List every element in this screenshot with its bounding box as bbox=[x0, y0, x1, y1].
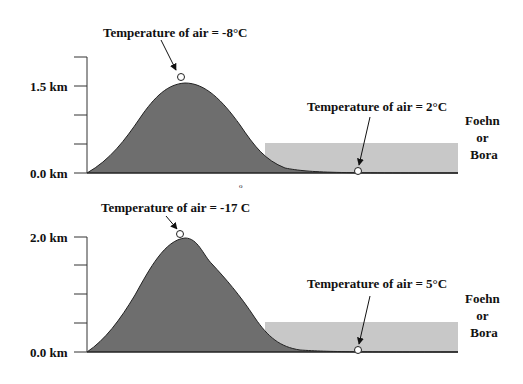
air-parcel-summit bbox=[178, 74, 185, 81]
panel-top: 1.5 km 0.0 km Temperature of air = -8°C … bbox=[30, 25, 503, 181]
axis-label-top: 1.5 km bbox=[30, 79, 68, 94]
summit-arrow bbox=[161, 40, 176, 70]
air-parcel-lee bbox=[355, 347, 362, 354]
axis-label-bottom: 0.0 km bbox=[30, 166, 68, 181]
air-parcel-summit bbox=[177, 231, 184, 238]
wind-name-label: Foehn or Bora bbox=[465, 113, 503, 162]
y-axis-ticks bbox=[74, 237, 87, 352]
summit-temperature-label: Temperature of air = -17 C bbox=[101, 200, 250, 215]
foehn-diagram: 1.5 km 0.0 km Temperature of air = -8°C … bbox=[0, 0, 523, 384]
axis-label-bottom: 0.0 km bbox=[30, 345, 68, 360]
y-axis-ticks bbox=[74, 57, 87, 173]
wind-band bbox=[265, 322, 458, 352]
stray-mark: o bbox=[239, 182, 243, 190]
summit-arrow bbox=[166, 216, 177, 229]
lee-temperature-label: Temperature of air = 2°C bbox=[307, 99, 447, 114]
wind-name-label: Foehn or Bora bbox=[465, 291, 503, 340]
air-parcel-lee bbox=[355, 168, 362, 175]
panel-bottom: 2.0 km 0.0 km Temperature of air = -17 C… bbox=[30, 200, 503, 360]
wind-band bbox=[265, 143, 458, 173]
lee-temperature-label: Temperature of air = 5°C bbox=[307, 276, 447, 291]
summit-temperature-label: Temperature of air = -8°C bbox=[103, 25, 248, 40]
axis-label-top: 2.0 km bbox=[30, 230, 68, 245]
